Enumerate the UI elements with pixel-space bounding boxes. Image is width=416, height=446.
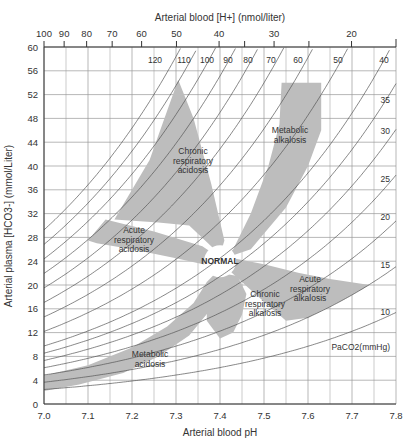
isopleth-label: 25 (381, 174, 391, 184)
y-tick-label: 60 (27, 42, 38, 53)
label-line: NORMAL (201, 256, 238, 266)
y-axis-title: Arterial plasma [HCO3-] (mmol/Liter) (3, 145, 14, 307)
isopleth-label: 40 (379, 55, 389, 65)
isopleth-label: 10 (381, 307, 391, 317)
isopleth-label: 20 (381, 212, 391, 222)
metabolic-acidosis-label: Metabolicacidosis (132, 349, 169, 369)
label-line: alkalosis (274, 135, 307, 145)
x-axis-title: Arterial blood pH (183, 427, 257, 438)
acid-base-nomogram: 7.07.17.27.37.47.57.67.77.80481216202428… (0, 0, 416, 446)
x-tick-label: 7.3 (169, 410, 182, 421)
x-tick-label: 7.8 (389, 410, 402, 421)
isopleth-label: 80 (243, 55, 253, 65)
y-tick-label: 40 (27, 161, 38, 172)
top-axis-title: Arterial blood [H+] (nmol/liter) (155, 12, 285, 23)
y-tick-label: 44 (27, 137, 38, 148)
y-tick-label: 0 (33, 399, 38, 410)
y-tick-label: 20 (27, 280, 38, 291)
y-tick-label: 8 (33, 351, 38, 362)
y-tick-label: 48 (27, 113, 38, 124)
isopleth-label: 60 (293, 55, 303, 65)
label-line: respiratory (173, 156, 214, 166)
top-tick-label: 60 (136, 28, 147, 39)
y-tick-label: 4 (33, 375, 38, 386)
metabolic-alkalosis-label: Metabolicalkalosis (272, 125, 309, 145)
y-tick-label: 52 (27, 89, 38, 100)
isopleth-label: 90 (223, 55, 233, 65)
isopleth-label: 100 (200, 55, 214, 65)
chronic-respiratory-acidosis-label: Chronicrespiratoryacidosis (173, 146, 214, 175)
label-line: Metabolic (272, 125, 309, 135)
top-tick-label: 90 (59, 28, 70, 39)
y-tick-label: 32 (27, 208, 38, 219)
isopleth-label: 120 (148, 55, 162, 65)
y-tick-label: 16 (27, 303, 38, 314)
top-tick-label: 70 (107, 28, 118, 39)
top-tick-label: 20 (346, 28, 357, 39)
label-line: Chronic (250, 289, 280, 299)
isopleth-label: 35 (381, 95, 391, 105)
top-tick-label: 80 (81, 28, 92, 39)
isopleth-label: 15 (381, 260, 391, 270)
label-line: respiratory (290, 284, 331, 294)
isopleth-label: 50 (333, 55, 343, 65)
top-tick-label: 100 (36, 28, 52, 39)
x-tick-label: 7.5 (257, 410, 270, 421)
x-tick-label: 7.2 (125, 410, 138, 421)
y-tick-label: 24 (27, 256, 38, 267)
x-tick-label: 7.4 (213, 410, 226, 421)
label-line: alkalosis (249, 308, 282, 318)
isopleth-axis-label: PaCO2(mmHg) (331, 342, 390, 352)
y-tick-label: 56 (27, 65, 38, 76)
label-line: respiratory (245, 299, 286, 309)
y-tick-label: 36 (27, 184, 38, 195)
top-tick-label: 50 (171, 28, 182, 39)
isopleth-label: 110 (177, 55, 191, 65)
label-line: alkalosis (294, 293, 327, 303)
label-line: acidosis (119, 244, 150, 254)
x-tick-label: 7.0 (37, 410, 50, 421)
top-tick-label: 40 (214, 28, 225, 39)
label-line: Acute (123, 225, 145, 235)
x-tick-label: 7.7 (345, 410, 358, 421)
label-line: Chronic (178, 146, 208, 156)
x-tick-label: 7.6 (301, 410, 314, 421)
y-tick-label: 12 (27, 327, 38, 338)
label-line: Acute (299, 274, 321, 284)
x-tick-label: 7.1 (81, 410, 94, 421)
top-tick-label: 30 (269, 28, 280, 39)
y-tick-label: 28 (27, 232, 38, 243)
label-line: acidosis (135, 359, 166, 369)
label-line: acidosis (178, 165, 209, 175)
normal-label: NORMAL (201, 256, 238, 266)
label-line: respiratory (114, 235, 155, 245)
isopleth-label: 70 (266, 55, 276, 65)
isopleth-label: 30 (381, 126, 391, 136)
label-line: Metabolic (132, 349, 169, 359)
